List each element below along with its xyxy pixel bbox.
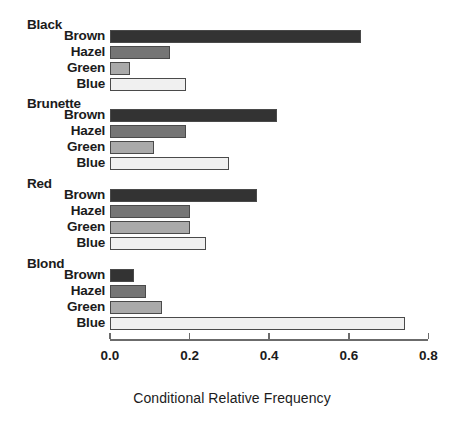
bar-label-red-blue: Blue	[5, 235, 105, 251]
bar-label-brunette-brown: Brown	[5, 107, 105, 123]
x-axis-line	[110, 339, 428, 341]
bar-row: Green	[0, 62, 464, 75]
bar-red-brown	[110, 189, 257, 202]
bar-brunette-brown	[110, 109, 277, 122]
x-axis-tick	[428, 333, 430, 339]
bar-blond-blue	[110, 317, 405, 330]
bar-label-black-green: Green	[5, 60, 105, 76]
x-axis-tick	[348, 333, 350, 339]
bar-blond-green	[110, 301, 162, 314]
bar-label-brunette-hazel: Hazel	[5, 123, 105, 139]
bar-row: Blue	[0, 157, 464, 170]
bar-row: Hazel	[0, 205, 464, 218]
bar-brunette-green	[110, 141, 154, 154]
bar-label-blond-blue: Blue	[5, 315, 105, 331]
x-axis-tick-label: 0.0	[101, 348, 120, 363]
x-axis-tick-label: 0.2	[180, 348, 199, 363]
bar-blond-hazel	[110, 285, 146, 298]
bar-label-red-hazel: Hazel	[5, 203, 105, 219]
bar-red-blue	[110, 237, 206, 250]
bar-row: Brown	[0, 109, 464, 122]
bar-row: Blue	[0, 317, 464, 330]
bar-black-green	[110, 62, 130, 75]
x-axis-tick	[268, 333, 270, 339]
bar-row: Brown	[0, 30, 464, 43]
bar-black-hazel	[110, 46, 170, 59]
bar-label-brunette-blue: Blue	[5, 155, 105, 171]
bar-row: Green	[0, 141, 464, 154]
bar-row: Hazel	[0, 46, 464, 59]
bar-label-blond-hazel: Hazel	[5, 283, 105, 299]
bar-row: Hazel	[0, 285, 464, 298]
bar-row: Hazel	[0, 125, 464, 138]
bar-label-black-brown: Brown	[5, 28, 105, 44]
bar-label-red-green: Green	[5, 219, 105, 235]
bar-brunette-blue	[110, 157, 229, 170]
bar-black-brown	[110, 30, 361, 43]
x-axis-tick-label: 0.6	[339, 348, 358, 363]
bar-label-black-hazel: Hazel	[5, 44, 105, 60]
x-axis-tick	[109, 333, 111, 339]
bar-brunette-hazel	[110, 125, 186, 138]
bar-label-blond-green: Green	[5, 299, 105, 315]
bar-row: Blue	[0, 237, 464, 250]
x-axis-tick-label: 0.4	[260, 348, 279, 363]
plot-area: BlackBrownHazelGreenBlueBrunetteBrownHaz…	[0, 0, 464, 430]
bar-blond-brown	[110, 269, 134, 282]
x-axis-tick	[189, 333, 191, 339]
conditional-relative-frequency-chart: BlackBrownHazelGreenBlueBrunetteBrownHaz…	[0, 0, 464, 430]
bar-label-black-blue: Blue	[5, 76, 105, 92]
bar-label-brunette-green: Green	[5, 139, 105, 155]
bar-red-green	[110, 221, 190, 234]
bar-row: Green	[0, 301, 464, 314]
bar-row: Brown	[0, 189, 464, 202]
x-axis-tick-label: 0.8	[419, 348, 438, 363]
bar-row: Brown	[0, 269, 464, 282]
bar-row: Blue	[0, 78, 464, 91]
bar-red-hazel	[110, 205, 190, 218]
bar-label-blond-brown: Brown	[5, 267, 105, 283]
bar-row: Green	[0, 221, 464, 234]
bar-black-blue	[110, 78, 186, 91]
x-axis-title: Conditional Relative Frequency	[0, 390, 464, 406]
bar-label-red-brown: Brown	[5, 187, 105, 203]
